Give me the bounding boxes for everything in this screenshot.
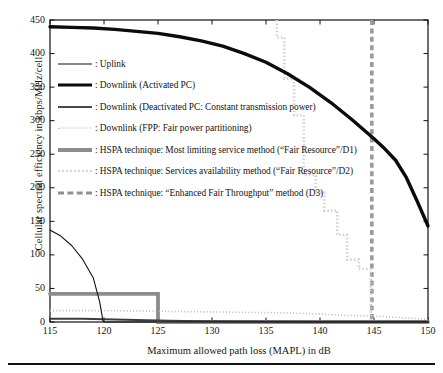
- legend-item: : HSPA technique: “Enhanced Fair Through…: [58, 188, 357, 199]
- legend-item: : Downlink (Activated PC): [58, 80, 357, 91]
- legend-label: : Uplink: [95, 59, 126, 69]
- y-tick-label: 250: [19, 148, 45, 159]
- legend-swatch-icon: [58, 123, 92, 134]
- legend-label: : HSPA technique: Services availability …: [95, 166, 353, 176]
- x-tick-label: 130: [197, 325, 227, 336]
- legend-swatch-icon: [58, 188, 92, 199]
- x-axis-label: Maximum allowed path loss (MAPL) in dB: [50, 345, 428, 356]
- x-tick-label: 140: [305, 325, 335, 336]
- y-tick-label: 200: [19, 181, 45, 192]
- y-tick-label: 400: [19, 47, 45, 58]
- x-tick-label: 115: [35, 325, 65, 336]
- legend-label: : Downlink (Deactivated PC: Constant tra…: [95, 102, 316, 112]
- y-tick-label: 300: [19, 114, 45, 125]
- x-tick-label: 135: [251, 325, 281, 336]
- legend-item: : Downlink (FPP: Fair power partitioning…: [58, 123, 357, 134]
- legend-item: : Downlink (Deactivated PC: Constant tra…: [58, 101, 357, 112]
- chart-figure: Cellular spectral efficiency in kbps/MHz…: [0, 0, 443, 373]
- legend-item: : HSPA technique: Most limiting service …: [58, 144, 357, 155]
- legend-label: : Downlink (FPP: Fair power partitioning…: [95, 123, 252, 133]
- legend-item: : HSPA technique: Services availability …: [58, 166, 357, 177]
- x-tick-label: 125: [143, 325, 173, 336]
- footer-rule: [8, 363, 435, 365]
- legend-swatch-icon: [58, 166, 92, 177]
- legend-label: : Downlink (Activated PC): [95, 80, 195, 90]
- y-tick-label: 450: [19, 14, 45, 25]
- legend-swatch-icon: [58, 101, 92, 112]
- y-tick-label: 0: [19, 316, 45, 327]
- chart-legend: : Uplink: Downlink (Activated PC): Downl…: [58, 58, 357, 209]
- legend-swatch-icon: [58, 80, 92, 91]
- y-tick-label: 150: [19, 215, 45, 226]
- y-tick-label: 50: [19, 282, 45, 293]
- y-tick-label: 350: [19, 81, 45, 92]
- x-tick-label: 150: [413, 325, 443, 336]
- y-tick-label: 100: [19, 248, 45, 259]
- legend-swatch-icon: [58, 144, 92, 155]
- x-tick-label: 120: [89, 325, 119, 336]
- legend-swatch-icon: [58, 58, 92, 69]
- x-tick-label: 145: [359, 325, 389, 336]
- legend-item: : Uplink: [58, 58, 357, 69]
- legend-label: : HSPA technique: “Enhanced Fair Through…: [95, 188, 323, 198]
- legend-label: : HSPA technique: Most limiting service …: [95, 145, 357, 155]
